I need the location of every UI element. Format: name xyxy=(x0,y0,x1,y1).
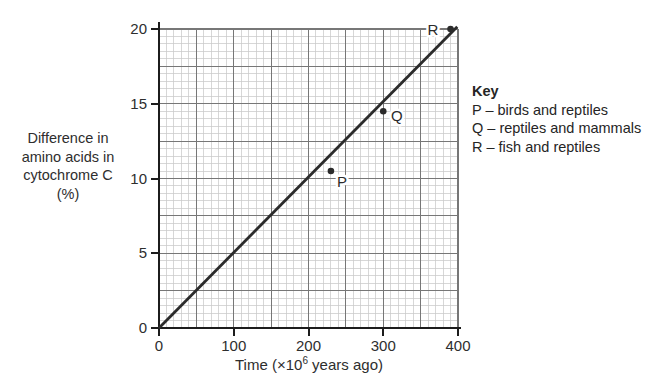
y-axis-label-line: cytochrome C xyxy=(14,166,122,185)
y-tick-labels: 05101520 xyxy=(130,20,147,336)
y-tick-label: 5 xyxy=(139,244,147,261)
legend-item-q: Q – reptiles and mammals xyxy=(472,119,641,138)
data-point-label-p: P xyxy=(337,173,347,190)
data-point-label-r: R xyxy=(428,21,439,38)
y-tick-label: 20 xyxy=(130,20,147,37)
x-tick-label: 100 xyxy=(221,337,246,354)
y-tick-label: 10 xyxy=(130,170,147,187)
x-tick-label: 400 xyxy=(445,337,470,354)
legend: Key P – birds and reptiles Q – reptiles … xyxy=(472,82,641,156)
x-axis-label-text: Time (×10 xyxy=(235,356,302,373)
y-axis-label-line: Difference in xyxy=(14,129,122,148)
data-point-r xyxy=(447,26,454,33)
x-axis-label: Time (×106 years ago) xyxy=(159,355,459,373)
y-tick-label: 0 xyxy=(139,319,147,336)
data-point-q xyxy=(380,108,387,115)
legend-item-p: P – birds and reptiles xyxy=(472,101,641,120)
y-axis-label-line: amino acids in xyxy=(14,148,122,167)
data-point-label-q: Q xyxy=(391,107,403,124)
x-tick-label: 200 xyxy=(296,337,321,354)
data-point-p xyxy=(328,168,335,175)
legend-item-r: R – fish and reptiles xyxy=(472,138,641,157)
legend-title: Key xyxy=(472,82,641,101)
y-tick-label: 15 xyxy=(130,95,147,112)
y-axis-label: Difference in amino acids in cytochrome … xyxy=(14,129,122,203)
y-axis-label-line: (%) xyxy=(14,185,122,204)
x-tick-label: 0 xyxy=(155,337,163,354)
x-tick-label: 300 xyxy=(371,337,396,354)
x-tick-labels: 0100200300400 xyxy=(155,337,471,354)
cytochrome-c-chart-figure: 010020030040005101520PQR Difference in a… xyxy=(0,0,662,391)
x-axis-label-text: years ago) xyxy=(308,356,383,373)
